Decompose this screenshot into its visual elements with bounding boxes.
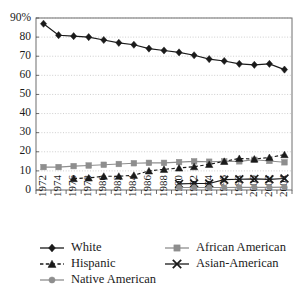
line-chart: 90%80706050403020100 1972197419761978198… — [0, 0, 301, 292]
data-point-marker — [282, 159, 288, 165]
legend-item-african-american[interactable]: African American — [165, 240, 287, 254]
data-point-marker — [266, 60, 272, 67]
data-point-marker — [86, 34, 92, 41]
data-point-marker — [146, 160, 152, 166]
y-tick-label: 90% — [10, 11, 32, 23]
data-point-marker — [56, 164, 62, 170]
data-point-marker — [101, 162, 107, 168]
chart-legend: WhiteAfrican AmericanHispanicAsian-Ameri… — [40, 240, 287, 286]
legend-label: White — [71, 240, 102, 254]
data-point-marker — [146, 45, 152, 52]
data-point-marker — [281, 66, 287, 73]
y-tick-label: 0 — [25, 183, 31, 195]
data-point-marker — [267, 185, 273, 191]
data-point-marker — [191, 185, 197, 191]
legend-item-white[interactable]: White — [40, 240, 102, 254]
data-point-marker — [161, 47, 167, 54]
legend-item-asian-american[interactable]: Asian-American — [165, 256, 279, 270]
data-point-marker — [71, 163, 77, 169]
legend-item-hispanic[interactable]: Hispanic — [40, 256, 116, 270]
legend-label: Hispanic — [71, 256, 116, 270]
data-point-marker — [191, 52, 197, 59]
data-point-marker — [71, 33, 77, 40]
data-point-marker — [176, 185, 182, 191]
data-point-marker — [252, 185, 258, 191]
data-series — [40, 20, 288, 190]
data-point-marker — [55, 32, 61, 39]
data-point-marker — [236, 60, 242, 67]
data-point-marker — [206, 185, 212, 191]
data-point-marker — [41, 164, 47, 170]
y-tick-label: 80 — [20, 30, 32, 42]
data-point-marker — [116, 161, 122, 167]
series-white — [40, 20, 287, 73]
data-point-marker — [116, 39, 122, 46]
data-point-marker — [282, 184, 288, 190]
x-tick-label: 1986 — [141, 175, 153, 198]
y-tick-label: 70 — [20, 49, 32, 61]
y-tick-label: 50 — [20, 87, 32, 99]
data-point-marker — [176, 49, 182, 56]
data-point-marker — [49, 244, 56, 252]
chart-canvas: 90%80706050403020100 1972197419761978198… — [0, 0, 301, 292]
gridlines — [36, 18, 292, 171]
y-tick-label: 10 — [20, 164, 32, 176]
y-tick-label: 30 — [20, 125, 32, 137]
y-tick-label: 60 — [20, 68, 32, 80]
data-point-marker — [221, 57, 227, 64]
data-point-marker — [49, 277, 55, 283]
legend-item-native-american[interactable]: Native American — [40, 272, 157, 286]
legend-label: Asian-American — [196, 256, 279, 270]
x-tick-label: 1988 — [157, 175, 169, 198]
data-point-marker — [175, 165, 182, 172]
x-tick-label: 1972 — [36, 175, 48, 197]
data-point-marker — [251, 61, 257, 68]
data-point-marker — [281, 151, 288, 158]
data-point-marker — [236, 185, 242, 191]
data-point-marker — [161, 160, 167, 166]
data-point-marker — [40, 20, 46, 27]
data-point-marker — [131, 41, 137, 48]
legend-label: Native American — [71, 272, 157, 286]
y-tick-label: 40 — [20, 106, 32, 118]
y-tick-label: 20 — [20, 144, 32, 156]
data-point-marker — [131, 160, 137, 166]
x-tick-label: 1974 — [51, 175, 63, 198]
y-axis-tick-labels: 90%80706050403020100 — [10, 11, 39, 195]
data-point-marker — [174, 245, 180, 251]
data-point-marker — [86, 163, 92, 169]
legend-label: African American — [196, 240, 287, 254]
data-point-marker — [221, 185, 227, 191]
